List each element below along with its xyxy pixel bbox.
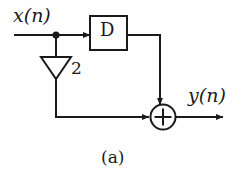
figure-signal-flow-diagram: x(n) y(n) 2 D (a) <box>0 0 249 176</box>
output-signal-label: y(n) <box>188 86 226 105</box>
input-signal-label: x(n) <box>13 6 51 25</box>
gain-value-label: 2 <box>71 60 82 77</box>
wire-gain-to-adder <box>56 79 149 117</box>
gain-triangle <box>41 57 71 79</box>
wire-delay-to-adder <box>127 35 160 105</box>
figure-caption: (a) <box>101 149 124 166</box>
delay-block-label: D <box>100 21 114 39</box>
